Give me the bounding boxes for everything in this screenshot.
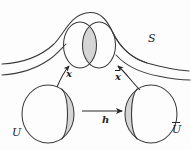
chart-ellipse-left xyxy=(22,85,74,143)
chart-lune-right xyxy=(120,86,138,142)
surface-rim-curve xyxy=(12,28,189,78)
chart-ellipse-right xyxy=(125,85,177,143)
label-point-x: x xyxy=(66,69,72,79)
label-chart-U: U xyxy=(12,127,21,138)
figure-container: S x x h U U xyxy=(0,0,191,150)
overbar-wrap-u: U xyxy=(172,124,181,135)
figure-canvas xyxy=(0,0,191,150)
label-chart-U-bar: U xyxy=(172,124,181,135)
label-surface-S: S xyxy=(148,33,156,44)
label-transition-h: h xyxy=(102,115,109,125)
overbar-wrap-x: x xyxy=(115,72,121,82)
label-point-x-bar: x xyxy=(115,72,121,82)
